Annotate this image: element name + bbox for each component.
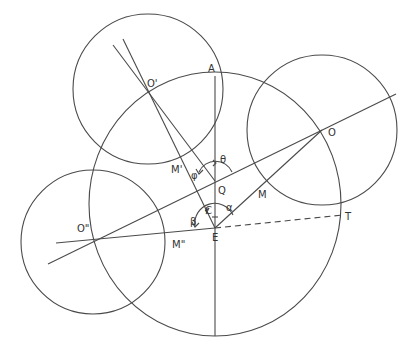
label-m-double-prime: M" (172, 239, 185, 250)
label-e: E (212, 232, 218, 243)
label-o-prime: O' (147, 78, 158, 89)
line-o-prime-to-q (113, 45, 215, 181)
label-c: C (205, 205, 212, 216)
label-m: M (258, 189, 267, 200)
label-a: A (208, 63, 215, 74)
label-phi: φ (191, 170, 198, 181)
label-alpha: α (226, 202, 233, 213)
diagram-canvas: O' A O O" M' M" M Q C E T θ φ α β (0, 0, 410, 357)
label-o: O (328, 127, 336, 138)
label-t: T (344, 211, 352, 222)
label-beta: β (190, 216, 196, 227)
line-e-to-o (215, 130, 322, 228)
label-m-prime: M' (171, 164, 182, 175)
dashed-line-e-to-t (215, 215, 343, 228)
geometry-diagram: O' A O O" M' M" M Q C E T θ φ α β (0, 0, 410, 357)
line-o-prime-to-e (123, 39, 215, 228)
circle-o-prime (73, 14, 223, 164)
label-q: Q (218, 185, 226, 196)
label-o-double-prime: O" (77, 223, 89, 234)
label-theta: θ (220, 154, 226, 165)
